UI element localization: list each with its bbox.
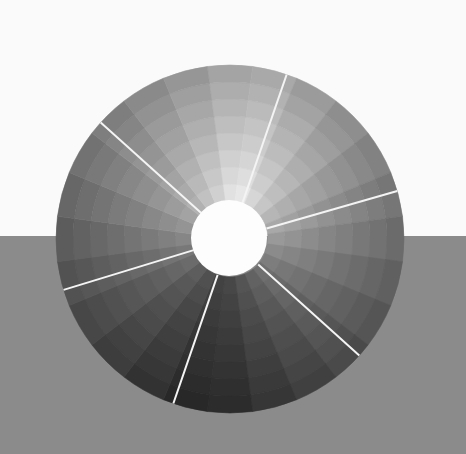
wheel-swatch — [218, 150, 241, 168]
wheel-swatch — [141, 227, 159, 250]
wheel-swatch — [335, 223, 353, 255]
wheel-swatch — [221, 167, 240, 184]
wheel-swatch — [352, 221, 370, 258]
wheel-swatch — [107, 223, 125, 255]
wheel-swatch — [207, 395, 252, 413]
wheel-swatch — [73, 219, 91, 260]
wheel-swatch — [216, 327, 244, 345]
wheel-swatch — [210, 378, 251, 396]
wheel-swatch — [214, 116, 246, 134]
wheel-swatch — [124, 225, 142, 253]
wheel-swatch — [56, 216, 74, 261]
wheel-swatch — [318, 225, 336, 253]
wheel-swatch — [216, 133, 244, 151]
wheel-swatch — [218, 310, 241, 328]
wheel-swatch — [212, 361, 249, 379]
wheel-swatch — [221, 294, 240, 311]
wheel-swatch — [369, 219, 387, 260]
wheel-swatch — [214, 344, 246, 362]
wheel-swatch — [212, 99, 249, 117]
wheel-swatch — [207, 65, 252, 83]
wheel-swatch — [386, 216, 404, 261]
wheel-swatch — [158, 230, 175, 249]
gray-value-wheel — [0, 0, 466, 454]
wheel-center-hub — [191, 200, 267, 276]
wheel-swatch — [301, 227, 319, 250]
wheel-swatch — [210, 82, 251, 100]
wheel-swatch — [90, 221, 108, 258]
wheel-swatch — [285, 230, 302, 249]
